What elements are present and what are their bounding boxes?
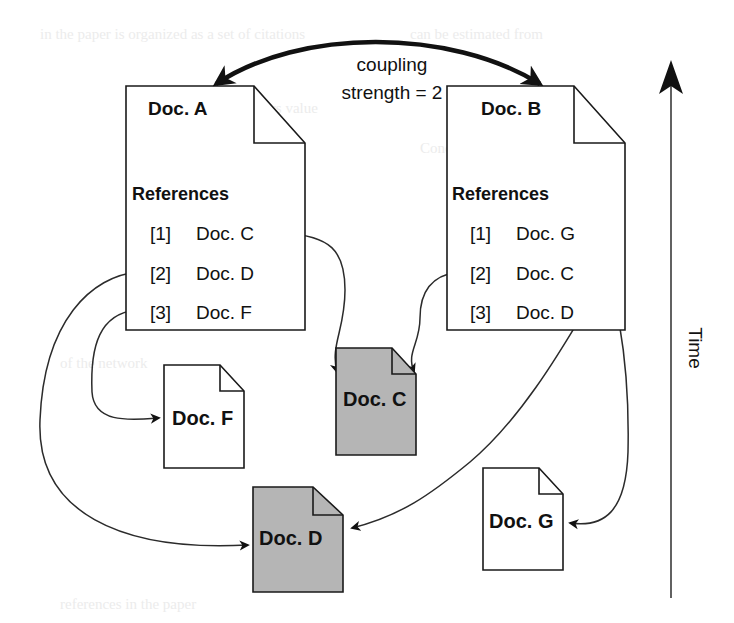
doc-b-ref-3-num: [3] [470, 302, 491, 323]
doc-a-title: Doc. A [148, 98, 208, 119]
doc-c-title: Doc. C [343, 388, 406, 410]
doc-a-ref-3-num: [3] [150, 302, 171, 323]
doc-b-ref-2-num: [2] [470, 263, 491, 284]
doc-a-shape [126, 86, 305, 330]
doc-b-title: Doc. B [481, 98, 541, 119]
doc-a-ref-3-target: Doc. F [196, 302, 252, 323]
doc-b-references-heading: References [452, 184, 549, 204]
doc-a-ref-2-num: [2] [150, 263, 171, 284]
doc-d-title: Doc. D [259, 527, 322, 549]
doc-b-ref-1-num: [1] [470, 223, 491, 244]
doc-d-node: Doc. D [253, 487, 343, 592]
doc-a-node: Doc. A References [1] Doc. C [2] Doc. D … [126, 86, 305, 330]
bibliographic-coupling-figure: in the paper is organized as a set of ci… [0, 0, 734, 623]
doc-a-ref-1-num: [1] [150, 223, 171, 244]
doc-b-node: Doc. B References [1] Doc. G [2] Doc. C … [447, 86, 625, 330]
doc-a-ref-1-target: Doc. C [196, 223, 254, 244]
doc-b-shape [447, 86, 625, 330]
doc-a-references-heading: References [132, 184, 229, 204]
doc-f-title: Doc. F [172, 407, 233, 429]
time-axis-label: Time [685, 327, 706, 369]
doc-g-title: Doc. G [489, 510, 553, 532]
coupling-label-line2: strength = 2 [342, 82, 443, 103]
time-axis: Time [659, 60, 706, 598]
doc-a-ref-2-target: Doc. D [196, 263, 254, 284]
coupling-label-line1: coupling [357, 54, 428, 75]
doc-g-node: Doc. G [483, 468, 563, 570]
doc-f-node: Doc. F [164, 365, 244, 468]
doc-c-node: Doc. C [336, 348, 416, 455]
doc-b-ref-2-target: Doc. C [516, 263, 574, 284]
doc-b-ref-1-target: Doc. G [516, 223, 575, 244]
doc-b-ref-3-target: Doc. D [516, 302, 574, 323]
